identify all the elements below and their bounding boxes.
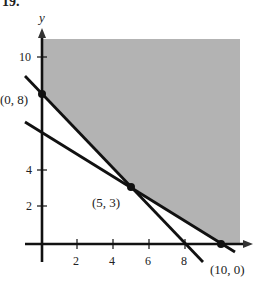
y-tick-2: 2 bbox=[26, 199, 32, 213]
y-tick-4: 4 bbox=[26, 163, 32, 177]
label-10-0: (10, 0) bbox=[210, 262, 245, 277]
label-0-8: (0, 8) bbox=[0, 92, 28, 107]
x-axis-arrow-icon bbox=[243, 240, 253, 248]
x-tick-2: 2 bbox=[73, 254, 79, 268]
feasible-region bbox=[42, 39, 240, 243]
label-5-3: (5, 3) bbox=[92, 195, 120, 210]
point-10-0 bbox=[217, 240, 225, 248]
x-tick-8: 8 bbox=[181, 254, 187, 268]
point-5-3 bbox=[127, 183, 135, 191]
y-axis-arrow-icon bbox=[38, 28, 46, 38]
x-tick-4: 4 bbox=[109, 254, 115, 268]
y-axis-label: y bbox=[37, 10, 45, 25]
problem-number: 19. bbox=[2, 0, 20, 9]
y-tick-10: 10 bbox=[19, 50, 31, 64]
x-tick-6: 6 bbox=[145, 254, 151, 268]
graph: 19. y 2 4 6 8 10 4 2 (0, 8) (5, 3) (10, … bbox=[0, 0, 253, 282]
point-0-8 bbox=[38, 90, 46, 98]
